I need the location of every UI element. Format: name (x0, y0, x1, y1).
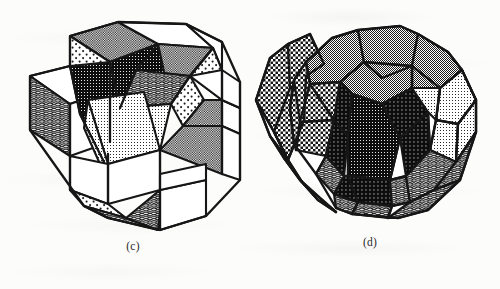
face-c-right-white-front (222, 126, 240, 180)
figure-c-drawing (8, 4, 258, 240)
figure-page: (c) (0, 0, 500, 289)
figure-d-drawing (248, 4, 488, 236)
figure-d (248, 4, 488, 236)
figure-c (8, 4, 258, 240)
figure-c-caption: (c) (103, 240, 163, 252)
figure-d-caption: (d) (340, 236, 400, 248)
